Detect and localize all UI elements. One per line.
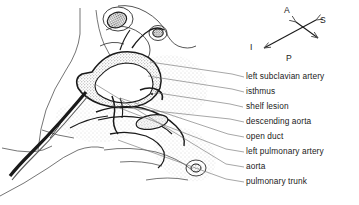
anatomical-diagram xyxy=(0,0,359,205)
label-pulmonary-trunk: pulmonary trunk xyxy=(246,177,307,186)
aortic-arch xyxy=(77,28,164,108)
label-isthmus: isthmus xyxy=(246,87,275,96)
label-descending-aorta: descending aorta xyxy=(246,117,311,126)
compass-label-p: P xyxy=(286,53,292,63)
compass-label-i: I xyxy=(250,42,252,52)
label-aorta: aorta xyxy=(246,162,265,171)
label-left-subclavian-artery: left subclavian artery xyxy=(246,72,324,81)
compass-arrows xyxy=(264,20,318,48)
vessel-cross-sections xyxy=(103,7,167,41)
label-left-pulmonary-artery: left pulmonary artery xyxy=(246,147,324,156)
compass-label-a: A xyxy=(284,5,290,15)
compass-label-s: S xyxy=(320,15,326,25)
label-open-duct: open duct xyxy=(246,132,283,141)
label-shelf-lesion: shelf lesion xyxy=(246,102,289,111)
